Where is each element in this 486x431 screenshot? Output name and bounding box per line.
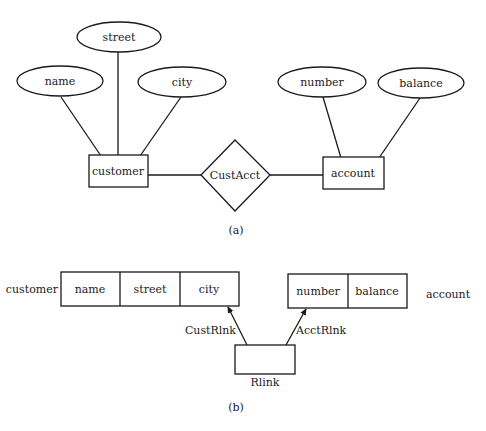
attribute-city: city xyxy=(138,67,226,97)
figure-b-network-diagram: customer name street city number balance… xyxy=(6,272,471,414)
entity-account-label: account xyxy=(331,167,376,180)
attribute-street-label: street xyxy=(103,31,136,44)
attribute-name-label: name xyxy=(45,75,76,88)
attribute-balance: balance xyxy=(378,68,464,98)
record-customer: customer name street city xyxy=(6,272,239,306)
record-account: number balance account xyxy=(288,274,471,308)
city-to-customer-line xyxy=(140,97,181,156)
figure-a-er-diagram: street name city number balance customer… xyxy=(17,22,464,237)
attribute-name: name xyxy=(17,66,103,96)
relationship-custacct: CustAcct xyxy=(201,140,270,211)
record-customer-label: customer xyxy=(6,283,59,296)
entity-customer-label: customer xyxy=(92,165,145,178)
figure-a-caption: (a) xyxy=(228,224,243,237)
record-rlink: Rlink xyxy=(235,345,295,389)
record-customer-field-name: name xyxy=(75,283,106,296)
attribute-street: street xyxy=(77,22,161,52)
number-to-account-line xyxy=(323,97,341,158)
attribute-number-label: number xyxy=(300,76,344,89)
entity-customer: customer xyxy=(89,155,148,187)
balance-to-account-line xyxy=(379,98,420,158)
custrlnk-label: CustRlnk xyxy=(185,324,236,337)
record-account-field-balance: balance xyxy=(355,285,398,298)
record-customer-field-street: street xyxy=(134,283,167,296)
attribute-balance-label: balance xyxy=(399,77,442,90)
record-account-field-number: number xyxy=(296,285,340,298)
attribute-number: number xyxy=(278,67,366,97)
er-network-diagram: street name city number balance customer… xyxy=(0,0,486,431)
entity-account: account xyxy=(323,157,384,189)
record-account-label: account xyxy=(426,288,471,301)
record-rlink-label: Rlink xyxy=(250,376,279,389)
figure-b-caption: (b) xyxy=(228,401,244,414)
attribute-city-label: city xyxy=(172,76,193,89)
record-customer-field-city: city xyxy=(199,283,220,296)
acctrlnk-label: AcctRlnk xyxy=(295,324,347,337)
relationship-custacct-label: CustAcct xyxy=(210,169,261,182)
name-to-customer-line xyxy=(61,97,101,156)
